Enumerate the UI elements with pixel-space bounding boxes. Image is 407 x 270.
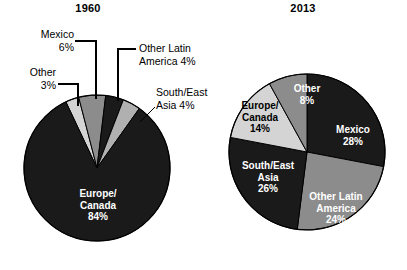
- pie-slice-mexico: [307, 74, 385, 167]
- pie-slice-other-latin-america: [297, 152, 383, 230]
- pie-slice-south-east-asia: [229, 137, 307, 229]
- pie-2013-wedges: [229, 74, 385, 230]
- figure-canvas: 1960 2013 Mexico 6% Other 3% Other Latin…: [0, 0, 407, 270]
- pie-chart-2013: [0, 0, 407, 270]
